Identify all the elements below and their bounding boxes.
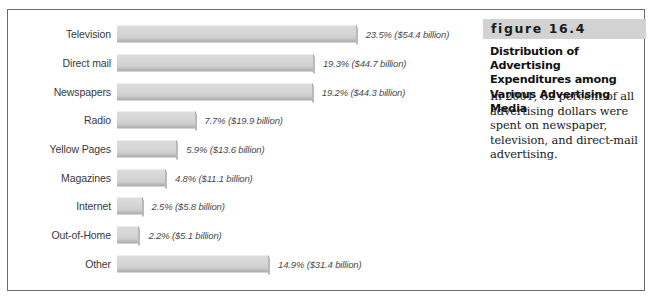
bar-track: 2.2% ($5.1 billion) (117, 221, 468, 250)
bar-data-label: 19.2% ($44.3 billion) (322, 86, 405, 97)
bar-track: 19.3% ($44.7 billion) (117, 49, 468, 78)
bar-category-label: Radio (8, 114, 111, 126)
bar-data-label: 7.7% ($19.9 billion) (205, 115, 283, 126)
bar-category-label: Out-of-Home (8, 229, 111, 241)
bar (117, 169, 166, 186)
bar (117, 141, 177, 158)
bar-chart-rows: Television23.5% ($54.4 billion)Direct ma… (8, 20, 468, 278)
bar-data-label: 2.2% ($5.1 billion) (148, 230, 221, 241)
bar-track: 4.8% ($11.1 billion) (117, 163, 468, 192)
figure-caption-body: In 2001, 62 percent of all advertising d… (490, 89, 646, 162)
bar-chart-row: Other14.9% ($31.4 billion) (8, 250, 468, 279)
bar-category-label: Direct mail (8, 57, 111, 69)
bar (117, 227, 139, 244)
bar (117, 55, 314, 72)
bar-data-label: 2.5% ($5.8 billion) (152, 201, 225, 212)
bar-chart: Television23.5% ($54.4 billion)Direct ma… (8, 10, 468, 290)
bar (117, 26, 357, 43)
bar-track: 5.9% ($13.6 billion) (117, 135, 468, 164)
bar (117, 83, 313, 100)
bar (117, 198, 143, 215)
bar-track: 2.5% ($5.8 billion) (117, 192, 468, 221)
bar-category-label: Yellow Pages (8, 143, 111, 155)
bar-chart-row: Magazines4.8% ($11.1 billion) (8, 163, 468, 192)
bar-chart-row: Yellow Pages5.9% ($13.6 billion) (8, 135, 468, 164)
figure-number-label: figure 16.4 (491, 21, 586, 36)
bar-category-label: Internet (8, 200, 111, 212)
bar-category-label: Newspapers (8, 86, 111, 98)
bar-chart-row: Direct mail19.3% ($44.7 billion) (8, 49, 468, 78)
bar-category-label: Magazines (8, 172, 111, 184)
figure-container: Television23.5% ($54.4 billion)Direct ma… (7, 9, 645, 291)
bar-chart-row: Radio7.7% ($19.9 billion) (8, 106, 468, 135)
bar-data-label: 19.3% ($44.7 billion) (323, 58, 406, 69)
bar-data-label: 5.9% ($13.6 billion) (186, 144, 264, 155)
figure-caption-panel: figure 16.4 Distribution of Advertising … (476, 10, 646, 290)
bar-category-label: Television (8, 28, 111, 40)
bar-data-label: 14.9% ($31.4 billion) (278, 258, 361, 269)
bar-chart-row: Internet2.5% ($5.8 billion) (8, 192, 468, 221)
bar-track: 19.2% ($44.3 billion) (117, 77, 468, 106)
bar-chart-row: Newspapers19.2% ($44.3 billion) (8, 77, 468, 106)
bar (117, 255, 269, 272)
bar-data-label: 23.5% ($54.4 billion) (366, 29, 449, 40)
bar (117, 112, 196, 129)
bar-category-label: Other (8, 258, 111, 270)
bar-data-label: 4.8% ($11.1 billion) (175, 172, 253, 183)
bar-track: 14.9% ($31.4 billion) (117, 250, 468, 279)
bar-chart-row: Television23.5% ($54.4 billion) (8, 20, 468, 49)
bar-track: 23.5% ($54.4 billion) (117, 20, 468, 49)
bar-track: 7.7% ($19.9 billion) (117, 106, 468, 135)
bar-chart-row: Out-of-Home2.2% ($5.1 billion) (8, 221, 468, 250)
